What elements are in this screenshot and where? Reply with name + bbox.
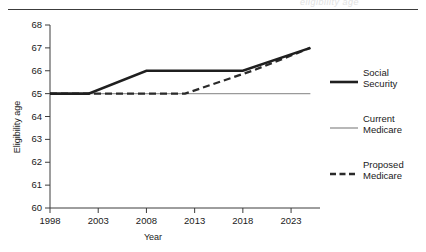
x-tick-label: 2008: [126, 216, 166, 226]
legend-label-line2: Medicare: [363, 170, 423, 181]
legend-item-proposed-medicare[interactable]: ProposedMedicare: [330, 160, 422, 186]
x-axis-label: Year: [0, 232, 306, 242]
legend-label-line1: Current: [363, 113, 423, 124]
legend-swatch-proposed-medicare: [330, 165, 358, 175]
legend-swatch-social-security: [330, 73, 358, 83]
y-tick-label: 66: [18, 66, 42, 76]
y-tick-label: 62: [18, 157, 42, 167]
y-tick-label: 63: [18, 134, 42, 144]
y-tick-label: 61: [18, 180, 42, 190]
y-tick-label: 60: [18, 203, 42, 213]
legend-label-social-security: SocialSecurity: [363, 67, 423, 89]
y-tick-label: 65: [18, 89, 42, 99]
y-tick-label: 68: [18, 20, 42, 30]
legend-label-proposed-medicare: ProposedMedicare: [363, 159, 423, 181]
series-line-social-security: [50, 48, 310, 94]
figure-root: eligibility age Eligibility age Year 606…: [0, 0, 426, 252]
y-tick-marks: [45, 25, 50, 208]
legend-item-social-security[interactable]: SocialSecurity: [330, 68, 422, 94]
y-axis-label: Eligibility age: [12, 101, 22, 154]
y-tick-label: 64: [18, 112, 42, 122]
x-tick-label: 2003: [78, 216, 118, 226]
legend-label-line2: Medicare: [363, 124, 423, 135]
x-tick-label: 2023: [271, 216, 311, 226]
legend-label-line2: Security: [363, 78, 423, 89]
legend-label-line1: Proposed: [363, 159, 423, 170]
axis-layer: [45, 25, 320, 213]
x-tick-label: 1998: [30, 216, 70, 226]
legend-swatch-current-medicare: [330, 119, 358, 129]
x-tick-label: 2013: [175, 216, 215, 226]
y-tick-label: 67: [18, 43, 42, 53]
legend-item-current-medicare[interactable]: CurrentMedicare: [330, 114, 422, 140]
x-tick-label: 2018: [223, 216, 263, 226]
legend-label-line1: Social: [363, 67, 423, 78]
data-series-layer: [50, 48, 310, 94]
legend-label-current-medicare: CurrentMedicare: [363, 113, 423, 135]
x-tick-marks: [50, 208, 291, 213]
